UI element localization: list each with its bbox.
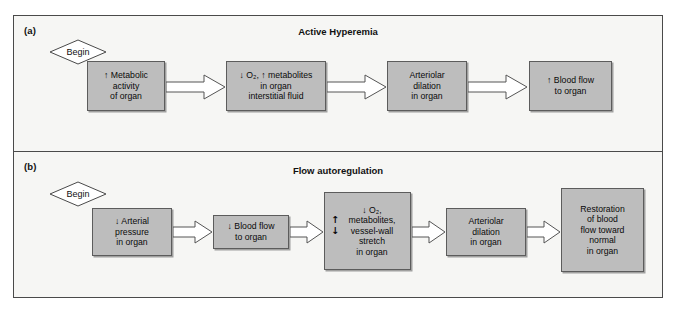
box-line: Arteriolar (409, 70, 444, 81)
figure-frame: (a) Active Hyperemia Begin ↑ Metabolic a… (13, 15, 663, 298)
panel-a-title: Active Hyperemia (14, 26, 662, 37)
box-line: dilation (409, 81, 444, 92)
box-line: Restoration (580, 204, 624, 215)
box-line: vessel-wall (349, 226, 396, 237)
box-line: to organ (228, 232, 275, 243)
box-line: in organ (240, 81, 313, 92)
box-line: ↓ Blood flow (228, 221, 275, 232)
box-o2-metabolites-stretch: ↑ ↓ ↓ O₂, metabolites, vessel-wall stret… (324, 192, 411, 270)
box-line: in organ (468, 237, 503, 248)
box-line: of blood (580, 214, 624, 225)
box-line: normal (580, 235, 624, 246)
box-line: ↑ Blood flow (547, 75, 594, 86)
box-line: ↑ Metabolic (104, 70, 148, 81)
box-line: in organ (580, 246, 624, 257)
flow-arrow (173, 220, 213, 244)
flow-arrow (412, 220, 446, 244)
box-restoration-of-flow: Restoration of blood flow toward normal … (561, 188, 644, 272)
box-line: pressure (115, 227, 149, 238)
box-line: interstitial fluid (240, 91, 313, 102)
box-line: of organ (104, 91, 148, 102)
panel-a: (a) Active Hyperemia Begin ↑ Metabolic a… (14, 16, 662, 152)
stretch-arrow-marks: ↑ ↓ (331, 193, 339, 269)
begin-node-b: Begin (49, 181, 107, 207)
box-arteriolar-dilation-b: Arteriolar dilation in organ (446, 208, 526, 256)
box-line: to organ (547, 86, 594, 97)
box-arterial-pressure: ↓ Arterial pressure in organ (92, 208, 172, 256)
panel-b: (b) Flow autoregulation Begin ↓ Arterial… (14, 152, 662, 298)
flow-arrow (290, 220, 324, 244)
box-blood-flow-to-organ: ↓ Blood flow to organ (213, 215, 289, 249)
flow-arrow (327, 74, 387, 100)
box-line: ↓ O₂, ↑ metabolites (240, 70, 313, 81)
box-line: stretch (349, 236, 396, 247)
box-line: Arteriolar (468, 216, 503, 227)
panel-b-title: Flow autoregulation (14, 165, 662, 176)
box-line: in organ (115, 237, 149, 248)
box-blood-flow: ↑ Blood flow to organ (529, 61, 612, 111)
box-line: ↓ Arterial (115, 216, 149, 227)
box-arteriolar-dilation: Arteriolar dilation in organ (387, 61, 467, 111)
box-line: in organ (409, 91, 444, 102)
box-line: in organ (349, 247, 396, 258)
box-line: flow toward (580, 225, 624, 236)
flow-arrow (166, 74, 226, 100)
mark-down: ↓ (331, 226, 339, 237)
begin-label-b: Begin (49, 181, 107, 207)
flow-arrow (527, 220, 561, 244)
box-line: dilation (468, 227, 503, 238)
box-line: activity (104, 81, 148, 92)
box-o2-metabolites: ↓ O₂, ↑ metabolites in organ interstitia… (226, 61, 326, 111)
box-line: ↓ O₂, (349, 205, 396, 216)
box-metabolic-activity: ↑ Metabolic activity of organ (87, 61, 165, 111)
box-line: metabolites, (349, 215, 396, 226)
flow-arrow (468, 74, 528, 100)
